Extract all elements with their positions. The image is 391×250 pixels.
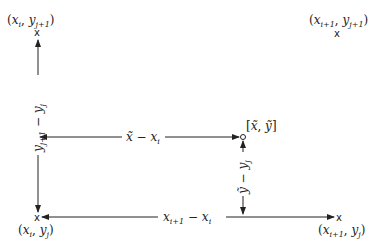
grid-point-x-marker: x [336, 212, 342, 223]
corner-bottom-left: (xi, yj) x [18, 212, 54, 239]
arrow-label-bottom-horizontal: xi+1 − xi [163, 210, 212, 226]
grid-point-x-marker: x [34, 212, 40, 223]
arrow-middle-horizontal: x̃ − xi [40, 130, 239, 146]
interpolation-diagram: (xi, yj+1) x (xi+1, yj+1) x (xi, yj) x (… [0, 0, 391, 250]
arrow-left-vertical: yj+1 − yj [31, 40, 47, 212]
arrow-label-middle-horizontal: x̃ − xi [126, 130, 160, 146]
arrow-label-left-vertical: yj+1 − yj [31, 103, 47, 153]
grid-point-x-marker: x [34, 27, 40, 38]
arrow-bottom-horizontal: xi+1 − xi [42, 210, 334, 226]
arrow-right-vertical: ỹ − yj [236, 141, 252, 214]
interpolation-point: [x̃, ỹ] [241, 119, 277, 140]
corner-label-bottom-right: (xi+1, yj) [318, 223, 365, 239]
corner-label-bottom-left: (xi, yj) [18, 223, 54, 239]
corner-label-top-left: (xi, yj+1) [7, 13, 54, 29]
arrow-label-right-vertical: ỹ − yj [236, 160, 252, 195]
corner-top-right: (xi+1, yj+1) x [309, 13, 368, 39]
corner-bottom-right: (xi+1, yj) x [318, 212, 365, 239]
grid-point-x-marker: x [334, 28, 340, 39]
point-label: [x̃, ỹ] [246, 119, 277, 133]
point-circle-marker [241, 135, 246, 140]
corner-top-left: (xi, yj+1) x [7, 13, 54, 38]
corner-label-top-right: (xi+1, yj+1) [309, 13, 368, 29]
